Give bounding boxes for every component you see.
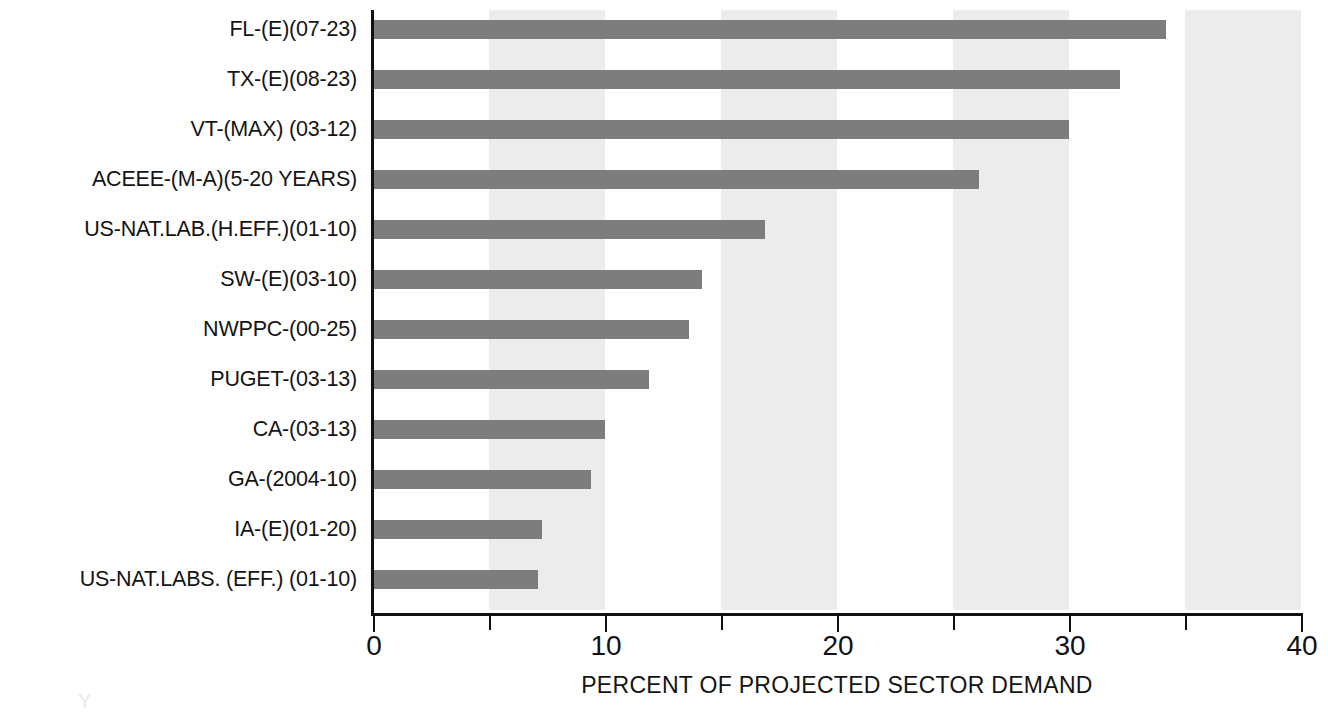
category-label: PUGET-(03-13) [0,367,357,391]
category-label: US-NAT.LAB.(H.EFF.)(01-10) [0,217,357,241]
x-axis-tick-label: 10 [571,630,641,662]
bar [373,320,689,339]
category-label: ACEEE-(M-A)(5-20 YEARS) [0,167,357,191]
category-label: FL-(E)(07-23) [0,17,357,41]
category-label: TX-(E)(08-23) [0,67,357,91]
x-axis-minor-tick [953,616,955,630]
bar [373,120,1069,139]
category-label: IA-(E)(01-20) [0,517,357,541]
horizontal-bar-chart: FL-(E)(07-23)TX-(E)(08-23)VT-(MAX) (03-1… [0,0,1328,720]
category-label: CA-(03-13) [0,417,357,441]
shaded-band [1185,10,1301,610]
bar [373,220,765,239]
bar [373,70,1120,89]
category-label: GA-(2004-10) [0,467,357,491]
category-label: VT-(MAX) (03-12) [0,117,357,141]
bar [373,520,542,539]
x-axis-tick-label: 40 [1267,630,1328,662]
bar [373,420,605,439]
x-axis-tick-label: 0 [339,630,409,662]
x-axis-tick-label: 30 [1035,630,1105,662]
bar [373,470,591,489]
bar [373,270,702,289]
bar [373,170,979,189]
category-label: US-NAT.LABS. (EFF.) (01-10) [0,567,357,591]
x-axis-minor-tick [1185,616,1187,630]
x-axis-tick-label: 20 [803,630,873,662]
bar [373,570,538,589]
y-axis-line [371,10,374,615]
shaded-band [721,10,837,610]
category-axis-labels: FL-(E)(07-23)TX-(E)(08-23)VT-(MAX) (03-1… [0,10,365,610]
bar [373,20,1166,39]
category-label: NWPPC-(00-25) [0,317,357,341]
plot-area [373,10,1301,610]
shaded-band [953,10,1069,610]
x-axis-minor-tick [721,616,723,630]
scan-artifact-mark: Y [78,690,94,712]
x-axis-minor-tick [489,616,491,630]
category-label: SW-(E)(03-10) [0,267,357,291]
x-axis-title: PERCENT OF PROJECTED SECTOR DEMAND [373,672,1301,699]
bar [373,370,649,389]
